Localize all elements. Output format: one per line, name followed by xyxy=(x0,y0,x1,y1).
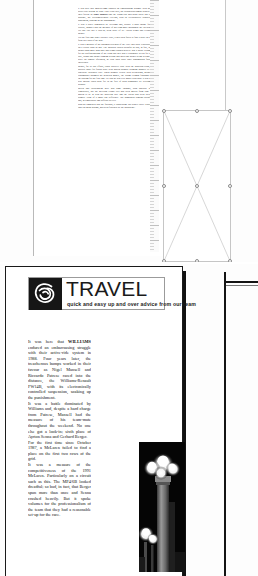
ruler-tick xyxy=(150,45,159,46)
ruler-tick xyxy=(150,231,154,232)
vertical-ruler[interactable] xyxy=(150,0,159,252)
ruler-tick xyxy=(150,216,154,217)
adjacent-object-edge xyxy=(224,272,226,576)
ruler-tick xyxy=(150,174,154,175)
ruler-tick xyxy=(150,21,154,22)
resize-handle-middle-right[interactable] xyxy=(228,184,232,188)
ruler-tick xyxy=(150,228,154,229)
ruler-tick xyxy=(150,63,154,64)
ruler-tick xyxy=(150,3,154,4)
ruler-tick xyxy=(150,108,154,109)
ruler-tick xyxy=(150,27,154,28)
pasteboard-divider xyxy=(0,262,258,264)
ruler-tick xyxy=(150,60,159,61)
ruler-tick xyxy=(150,126,154,127)
ruler-tick xyxy=(150,129,154,130)
ruler-tick xyxy=(150,57,154,58)
resize-handle-top-right[interactable] xyxy=(228,109,232,113)
ruler-tick xyxy=(150,192,154,193)
ruler-tick xyxy=(150,207,154,208)
ruler-tick xyxy=(150,195,159,196)
resize-handle-middle-left[interactable] xyxy=(162,184,166,188)
ruler-tick xyxy=(150,90,159,91)
night-lamps-photograph[interactable] xyxy=(139,442,185,572)
ruler-tick xyxy=(150,51,154,52)
ruler-tick xyxy=(150,18,154,19)
ruler-tick xyxy=(150,240,159,241)
ruler-tick xyxy=(150,111,154,112)
ruler-tick xyxy=(150,171,154,172)
ruler-tick xyxy=(150,189,154,190)
masthead-tagline: quick and easy up and over advice from o… xyxy=(67,301,196,307)
ruler-tick xyxy=(150,135,159,136)
ruler-tick xyxy=(150,30,159,31)
spiral-knot-icon xyxy=(29,278,62,310)
resize-handle-top-left[interactable] xyxy=(162,109,166,113)
ruler-tick xyxy=(150,168,154,169)
ruler-tick xyxy=(150,72,154,73)
ruler-tick xyxy=(150,153,154,154)
masthead-title: TRAVEL xyxy=(66,277,147,301)
ruler-tick xyxy=(150,222,154,223)
ruler-tick xyxy=(150,99,154,100)
ruler-tick xyxy=(150,144,154,145)
ruler-tick xyxy=(150,147,154,148)
ruler-tick xyxy=(150,123,154,124)
ruler-tick xyxy=(150,243,154,244)
ruler-tick xyxy=(150,186,154,187)
ruler-tick xyxy=(150,246,154,247)
ruler-tick xyxy=(150,213,154,214)
ruler-tick xyxy=(150,162,154,163)
ruler-tick xyxy=(150,66,154,67)
ruler-tick xyxy=(150,69,154,70)
adjacent-object-rule xyxy=(226,281,258,283)
empty-picture-frame[interactable] xyxy=(163,110,231,262)
ruler-tick xyxy=(150,156,154,157)
ruler-tick xyxy=(150,180,159,181)
travel-logo-icon xyxy=(29,278,62,310)
ruler-tick xyxy=(150,42,154,43)
ruler-tick xyxy=(150,84,154,85)
ruler-tick xyxy=(150,0,159,1)
photograph-image xyxy=(139,442,185,572)
ruler-tick xyxy=(150,105,159,106)
ruler-tick xyxy=(150,117,154,118)
ruler-tick xyxy=(150,150,159,151)
ruler-tick xyxy=(150,81,154,82)
layout-canvas[interactable]: It was here that WILLIAMS endured an emb… xyxy=(0,0,258,576)
text-frame-page-two[interactable]: It was here that WILLIAMS endured an emb… xyxy=(28,339,91,576)
text-frame-page-one[interactable]: It was here that WILLIAMS endured an emb… xyxy=(78,8,152,246)
ruler-tick xyxy=(150,87,154,88)
ruler-tick xyxy=(150,249,154,250)
ruler-tick xyxy=(150,9,154,10)
ruler-tick xyxy=(150,234,154,235)
masthead[interactable]: TRAVEL quick and easy up and over advice… xyxy=(28,277,165,310)
ruler-tick xyxy=(150,237,154,238)
ruler-tick xyxy=(150,138,154,139)
ruler-tick xyxy=(150,219,154,220)
ruler-tick xyxy=(150,15,159,16)
ruler-tick xyxy=(150,204,154,205)
ruler-tick xyxy=(150,39,154,40)
ruler-tick xyxy=(150,183,154,184)
ruler-tick xyxy=(150,210,159,211)
ruler-tick xyxy=(150,93,154,94)
ruler-tick xyxy=(150,36,154,37)
page-two[interactable]: TRAVEL quick and easy up and over advice… xyxy=(5,266,183,576)
ruler-tick xyxy=(150,165,159,166)
resize-handle-center[interactable] xyxy=(195,184,199,188)
ruler-tick xyxy=(150,54,154,55)
body-text-page-one: It was here that WILLIAMS endured an emb… xyxy=(78,8,152,110)
ruler-tick xyxy=(150,78,154,79)
body-text-page-two: It was here that WILLIAMS endured an emb… xyxy=(28,339,91,518)
ruler-tick xyxy=(150,141,154,142)
ruler-tick xyxy=(150,75,159,76)
ruler-tick xyxy=(150,201,154,202)
ruler-tick xyxy=(150,132,154,133)
ruler-tick xyxy=(150,6,154,7)
ruler-tick xyxy=(150,24,154,25)
ruler-tick xyxy=(150,120,159,121)
adjacent-object-hairline xyxy=(226,285,258,286)
resize-handle-top-center[interactable] xyxy=(195,109,199,113)
ruler-tick xyxy=(150,12,154,13)
